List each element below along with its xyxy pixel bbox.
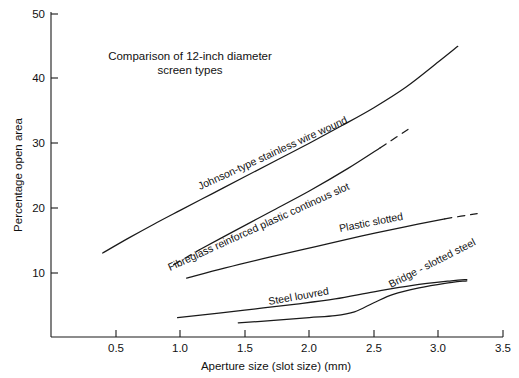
- y-tick-label-40: 40: [32, 72, 45, 84]
- x-tick-label-0-5: 0.5: [108, 342, 124, 354]
- y-tick-label-20: 20: [32, 202, 45, 214]
- line-chart: 50 40 30 20 10 0.5 1.0 1.5 2.0 2.5 3.0 3…: [0, 0, 519, 378]
- x-tick-label-3-5: 3.5: [495, 342, 511, 354]
- x-axis-ticks: 0.5 1.0 1.5 2.0 2.5 3.0 3.5: [108, 330, 511, 354]
- chart-container: 50 40 30 20 10 0.5 1.0 1.5 2.0 2.5 3.0 3…: [0, 0, 519, 378]
- series-label-johnson-type-stainless-wire-wound: Johnson-type stainless wire wound: [196, 113, 349, 192]
- series-path-plastic-slotted-dashed-end: [445, 214, 477, 219]
- y-axis-title: Percentage open area: [12, 117, 24, 231]
- x-tick-label-2-5: 2.5: [366, 342, 382, 354]
- chart-title-line-2: screen types: [157, 64, 222, 76]
- y-axis-ticks: 50 40 30 20 10: [32, 8, 58, 279]
- series-path-fibreglass-reinforced-plastic-continous-slot-dashed-end: [380, 126, 412, 147]
- series-label-plastic-slotted: Plastic slotted: [338, 210, 404, 234]
- x-axis-title: Aperture size (slot size) (mm): [201, 360, 351, 372]
- chart-title-line-1: Comparison of 12-inch diameter: [108, 50, 272, 62]
- x-tick-label-1-5: 1.5: [237, 342, 253, 354]
- y-tick-label-10: 10: [32, 267, 45, 279]
- y-tick-label-30: 30: [32, 137, 45, 149]
- y-tick-label-50: 50: [32, 8, 45, 20]
- x-tick-label-3-0: 3.0: [430, 342, 446, 354]
- x-tick-label-2-0: 2.0: [301, 342, 317, 354]
- x-tick-label-1-0: 1.0: [172, 342, 188, 354]
- series-paths-group: [103, 46, 478, 322]
- series-label-fibreglass-reinforced-plastic-continous-slot: Fibreglass reinforced plastic continous …: [166, 180, 351, 273]
